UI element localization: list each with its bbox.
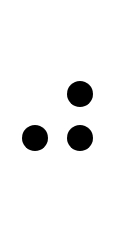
dot-bottom-left bbox=[22, 125, 48, 151]
dot-bottom-right bbox=[67, 125, 93, 151]
dot-top-right bbox=[67, 81, 93, 107]
